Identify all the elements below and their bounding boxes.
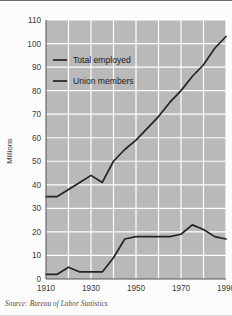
union-employment-line-chart: 0102030405060708090100110 19101930195019… — [0, 1, 232, 316]
x-tick-label-1910: 1910 — [37, 284, 56, 293]
y-tick-label-20: 20 — [32, 228, 42, 237]
y-axis-tick-labels: 0102030405060708090100110 — [27, 16, 41, 284]
x-tick-label-1930: 1930 — [82, 284, 101, 293]
chart-figure: 0102030405060708090100110 19101930195019… — [0, 0, 232, 316]
legend-label-total-employed: Total employed — [73, 55, 131, 65]
y-tick-label-100: 100 — [27, 40, 41, 49]
source-note: Source: Bureau of Labor Statistics — [5, 300, 108, 308]
y-tick-label-40: 40 — [32, 181, 42, 190]
legend-label-union-members: Union members — [73, 76, 134, 86]
y-tick-label-90: 90 — [32, 63, 42, 72]
x-tick-label-1970: 1970 — [172, 284, 191, 293]
y-tick-label-60: 60 — [32, 134, 42, 143]
y-tick-label-110: 110 — [28, 16, 41, 25]
x-tick-label-1950: 1950 — [127, 284, 146, 293]
y-tick-label-70: 70 — [32, 110, 42, 119]
y-tick-label-30: 30 — [32, 204, 42, 213]
y-tick-label-50: 50 — [32, 157, 42, 166]
x-tick-label-1990: 1990 — [217, 284, 232, 293]
y-tick-label-0: 0 — [36, 275, 41, 284]
y-axis-title: Millions — [5, 138, 14, 164]
x-axis-tick-labels: 19101930195019701990 — [37, 284, 232, 293]
y-tick-label-10: 10 — [32, 251, 42, 260]
y-tick-label-80: 80 — [32, 87, 42, 96]
